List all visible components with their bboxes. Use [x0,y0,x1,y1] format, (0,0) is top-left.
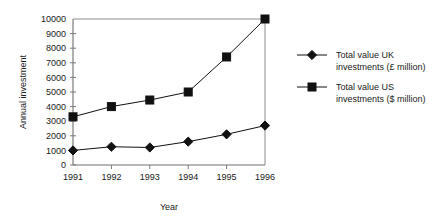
chart-container: 0100020003000400050006000700080009000100… [0,0,439,224]
data-point-marker-square [261,15,269,23]
data-series [69,15,269,121]
y-axis-tick-label: 7000 [46,58,66,68]
y-axis-tick-label: 6000 [46,73,66,83]
x-axis: 199119921993199419951996 [63,165,275,182]
y-axis-title: Annual investment [18,54,28,129]
series-line [73,126,265,151]
y-axis-tick-label: 4000 [46,102,66,112]
data-point-marker-square [146,96,154,104]
y-axis-tick-label: 2000 [46,131,66,141]
data-point-marker-square [223,53,231,61]
data-point-marker-diamond [145,143,154,152]
x-axis-tick-label: 1992 [101,172,121,182]
legend-label-line1: Total value US [336,82,394,92]
legend-label-line1: Total value UK [336,50,394,60]
y-axis-tick-label: 3000 [46,116,66,126]
x-axis-tick-label: 1996 [255,172,275,182]
x-axis-tick-label: 1993 [140,172,160,182]
y-axis: 0100020003000400050006000700080009000100… [41,14,76,170]
data-point-marker-square [308,83,316,91]
data-point-marker-diamond [68,146,77,155]
data-point-marker-square [184,88,192,96]
x-axis-tick-label: 1995 [217,172,237,182]
data-series-group [68,15,269,155]
legend-item[interactable]: Total value USinvestments ($ million) [297,82,426,104]
line-chart: 0100020003000400050006000700080009000100… [0,0,439,224]
y-axis-tick-label: 0 [61,160,66,170]
data-point-marker-diamond [307,50,316,59]
chart-legend: Total value UKinvestments (£ million)Tot… [297,50,426,104]
data-point-marker-diamond [222,130,231,139]
data-point-marker-square [107,103,115,111]
series-line [73,19,265,117]
legend-label-line2: investments ($ million) [336,94,426,104]
x-axis-tick-label: 1994 [178,172,198,182]
plot-frame [73,19,265,165]
x-axis-tick-label: 1991 [63,172,83,182]
y-axis-tick-label: 5000 [46,87,66,97]
data-point-marker-square [69,113,77,121]
data-point-marker-diamond [184,137,193,146]
y-axis-tick-label: 1000 [46,146,66,156]
y-axis-tick-label: 10000 [41,14,66,24]
legend-item[interactable]: Total value UKinvestments (£ million) [297,50,426,72]
x-axis-title: Year [160,202,178,212]
y-axis-tick-label: 9000 [46,29,66,39]
data-point-marker-diamond [107,142,116,151]
data-point-marker-diamond [260,121,269,130]
legend-label-line2: investments (£ million) [336,62,426,72]
data-series [68,121,269,155]
y-axis-tick-label: 8000 [46,43,66,53]
